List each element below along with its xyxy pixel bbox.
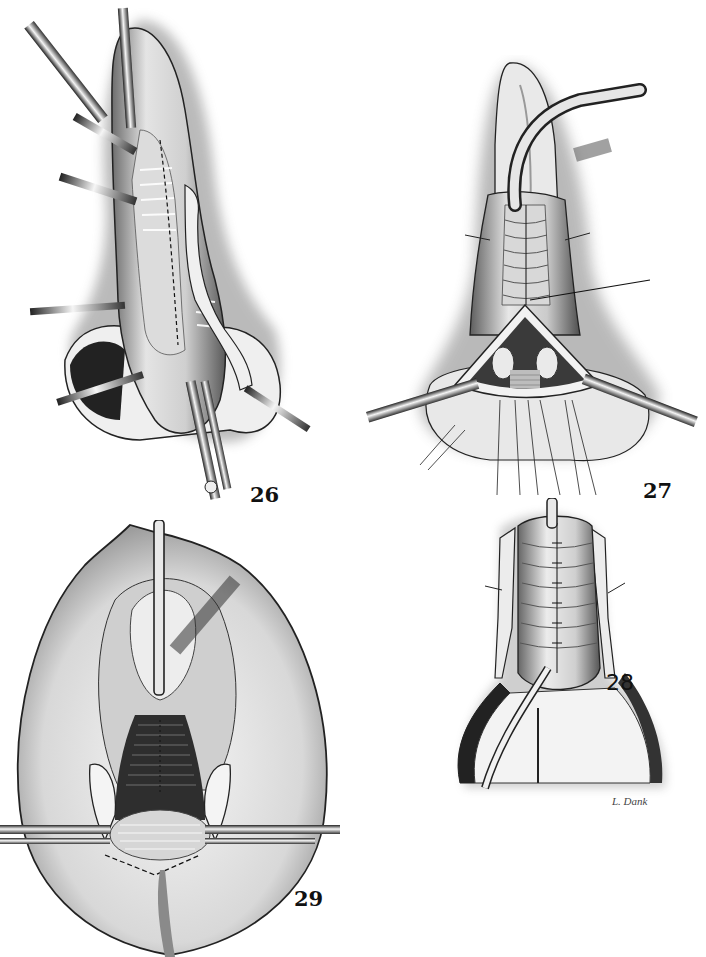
retractor-right [205,825,340,834]
figure-number-29: 29 [294,886,323,911]
figure-28 [440,498,690,798]
figure-26-illustration [0,0,320,500]
figure-27 [360,55,706,500]
figure-number-28: 28 [606,670,634,695]
illustration-plate: 26 [0,0,706,957]
catheter [154,520,164,695]
sutured-segment [502,205,550,305]
figure-27-illustration [360,55,706,500]
figure-26 [0,0,320,500]
retractor-left [0,825,110,834]
catheter [547,498,557,528]
figure-number-26: 26 [250,482,279,507]
artist-signature: L. Dank [612,795,647,807]
figure-28-illustration [440,498,690,798]
